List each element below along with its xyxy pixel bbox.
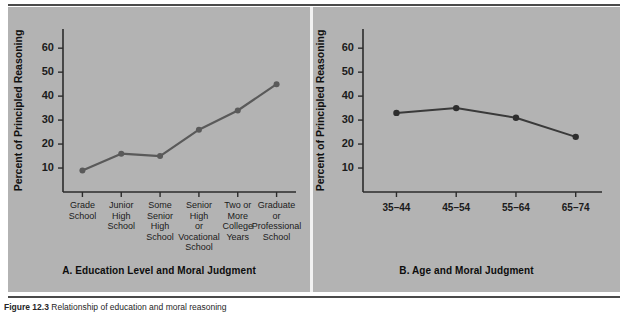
top-rule [8, 4, 620, 6]
data-point [196, 127, 202, 133]
x-axis-tick-label: or [273, 211, 281, 221]
series-line [82, 84, 276, 170]
x-axis-tick-label: Two or [224, 200, 251, 210]
x-axis-tick-label: College [222, 221, 253, 231]
panel-b-age: 102030405060Percent of Principled Reason… [313, 7, 620, 292]
data-point [118, 151, 124, 157]
x-axis-tick-label: Professional [252, 221, 302, 231]
x-axis-tick-label: 55–64 [502, 202, 530, 213]
x-axis-tick-label: School [69, 211, 97, 221]
x-axis-tick-label: School [107, 221, 135, 231]
x-axis-tick-label: Senior [186, 200, 212, 210]
panel-a-education: 102030405060Percent of Principled Reason… [8, 7, 310, 292]
panel-b-title: B. Age and Moral Judgment [313, 265, 620, 276]
y-axis-tick-label: 60 [42, 41, 54, 53]
data-point [453, 105, 459, 111]
panel-a-title: A. Education Level and Moral Judgment [8, 265, 310, 276]
series-line [396, 108, 575, 137]
bottom-rule [8, 296, 620, 298]
data-point [274, 81, 280, 87]
data-point [157, 153, 163, 159]
panel-b-plot-area: 102030405060Percent of Principled Reason… [313, 7, 620, 292]
figure-root: 102030405060Percent of Principled Reason… [0, 0, 628, 314]
y-axis-tick-label: 40 [342, 89, 354, 101]
figure-caption-number: Figure 12.3 [4, 302, 49, 312]
data-point [79, 167, 85, 173]
panel-a-plot-area: 102030405060Percent of Principled Reason… [8, 7, 310, 292]
x-axis-tick-label: High [190, 211, 209, 221]
y-axis-label: Percent of Principled Reasoning [12, 30, 24, 192]
x-axis-tick-label: Senior [147, 211, 173, 221]
x-axis-tick-label: High [151, 221, 170, 231]
x-axis-tick-label: School [185, 242, 213, 252]
y-axis-label: Percent of Principled Reasoning [314, 30, 326, 192]
x-axis-tick-label: High [112, 211, 131, 221]
data-point [513, 114, 519, 120]
y-axis-tick-label: 60 [342, 41, 354, 53]
y-axis-tick-label: 30 [342, 113, 354, 125]
y-axis-tick-label: 40 [42, 89, 54, 101]
y-axis-tick-label: 50 [42, 65, 54, 77]
data-point [235, 108, 241, 114]
figure-caption: Figure 12.3 Relationship of education an… [4, 302, 624, 312]
y-axis-tick-label: 20 [342, 137, 354, 149]
x-axis-tick-label: More [227, 211, 248, 221]
x-axis-tick-label: Graduate [258, 200, 296, 210]
panel-b-chart: 102030405060Percent of Principled Reason… [313, 7, 620, 257]
y-axis-tick-label: 20 [42, 137, 54, 149]
x-axis-tick-label: School [146, 232, 174, 242]
x-axis-tick-label: Grade [70, 200, 95, 210]
x-axis-tick-label: 45–54 [442, 202, 470, 213]
y-axis-tick-label: 30 [42, 113, 54, 125]
x-axis-tick-label: Junior [109, 200, 134, 210]
data-point [573, 134, 579, 140]
x-axis-tick-label: Years [226, 232, 249, 242]
figure-caption-text: Relationship of education and moral reas… [51, 302, 226, 312]
y-axis-tick-label: 10 [42, 161, 54, 173]
x-axis-tick-label: 35–44 [383, 202, 411, 213]
x-axis-tick-label: School [263, 232, 291, 242]
x-axis-tick-label: 65–74 [562, 202, 590, 213]
y-axis-tick-label: 50 [342, 65, 354, 77]
x-axis-tick-label: or [195, 221, 203, 231]
y-axis-tick-label: 10 [342, 161, 354, 173]
panel-a-chart: 102030405060Percent of Principled Reason… [8, 7, 310, 257]
x-axis-tick-label: Some [148, 200, 172, 210]
x-axis-tick-label: Vocational [178, 232, 220, 242]
data-point [393, 110, 399, 116]
